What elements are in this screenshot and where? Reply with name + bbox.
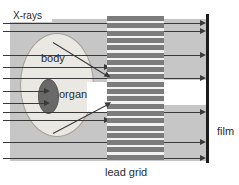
- lead-grid-bar: [107, 31, 164, 36]
- lead-grid-bar: [107, 53, 164, 58]
- lead-grid-bar: [107, 104, 164, 109]
- lead-grid-bar: [107, 147, 164, 152]
- lead-grid-bar: [107, 60, 164, 65]
- lead-grid-bar: [107, 126, 164, 131]
- film-label: film: [217, 125, 234, 137]
- lead-grid: [107, 16, 164, 160]
- lead-grid-bar: [107, 96, 164, 101]
- lead-grid-bar: [107, 155, 164, 160]
- lead-grid-bar: [107, 23, 164, 28]
- lead-grid-bar: [107, 133, 164, 138]
- lead-grid-bar: [107, 89, 164, 94]
- lead-grid-bar: [107, 140, 164, 145]
- organ-label: organ: [59, 88, 87, 100]
- lead-grid-bar: [107, 16, 164, 21]
- xrays-label: X-rays: [13, 10, 42, 22]
- lead-grid-bar: [107, 45, 164, 50]
- body-label: body: [41, 52, 65, 64]
- film-line: [206, 14, 209, 163]
- lead-grid-bar: [107, 74, 164, 79]
- organ-shadow-left: [87, 82, 108, 112]
- lead-grid-label: lead grid: [105, 166, 147, 178]
- lead-grid-bar: [107, 118, 164, 123]
- lead-grid-bar: [107, 38, 164, 43]
- lead-grid-bar: [107, 67, 164, 72]
- lead-grid-bar: [107, 82, 164, 87]
- organ-shadow-right: [164, 80, 206, 105]
- organ-ellipse: [38, 79, 59, 114]
- body-ellipse: [20, 33, 94, 137]
- lead-grid-bar: [107, 111, 164, 116]
- diagram-scene: X-rays body organ film lead grid: [0, 0, 239, 185]
